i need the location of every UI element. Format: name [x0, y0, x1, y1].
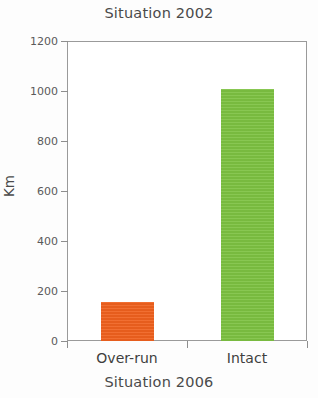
y-axis-tick-mark — [61, 41, 68, 42]
bar-chart-figure: Situation 2002 Km 020040060080010001200 … — [0, 0, 318, 398]
y-axis-title: Km — [1, 164, 17, 208]
chart-title: Situation 2002 — [0, 5, 318, 21]
plot-area: 020040060080010001200 Over-runIntact — [67, 41, 307, 341]
y-axis-tick-mark — [61, 141, 68, 142]
bar-over-run — [101, 302, 154, 341]
y-axis-tick-label: 0 — [51, 335, 58, 348]
x-axis-tick-mark — [67, 341, 68, 348]
y-axis-tick-label: 800 — [37, 135, 58, 148]
x-axis-tick-mark — [307, 341, 308, 348]
x-axis-label-over-run: Over-run — [96, 350, 157, 366]
y-axis-tick-label: 1200 — [30, 35, 58, 48]
y-axis-tick-label: 600 — [37, 185, 58, 198]
y-axis-tick-label: 200 — [37, 285, 58, 298]
y-axis-tick-label: 400 — [37, 235, 58, 248]
bar-texture — [221, 89, 274, 342]
x-axis-title: Situation 2006 — [0, 374, 318, 390]
y-axis-tick-mark — [61, 291, 68, 292]
y-axis-tick-label: 1000 — [30, 85, 58, 98]
y-axis-tick-mark — [61, 91, 68, 92]
y-axis-tick-mark — [61, 191, 68, 192]
y-axis-tick-mark — [61, 241, 68, 242]
bar-intact — [221, 89, 274, 342]
bar-texture — [101, 302, 154, 341]
x-axis-tick-mark — [187, 341, 188, 348]
x-axis-label-intact: Intact — [227, 350, 267, 366]
